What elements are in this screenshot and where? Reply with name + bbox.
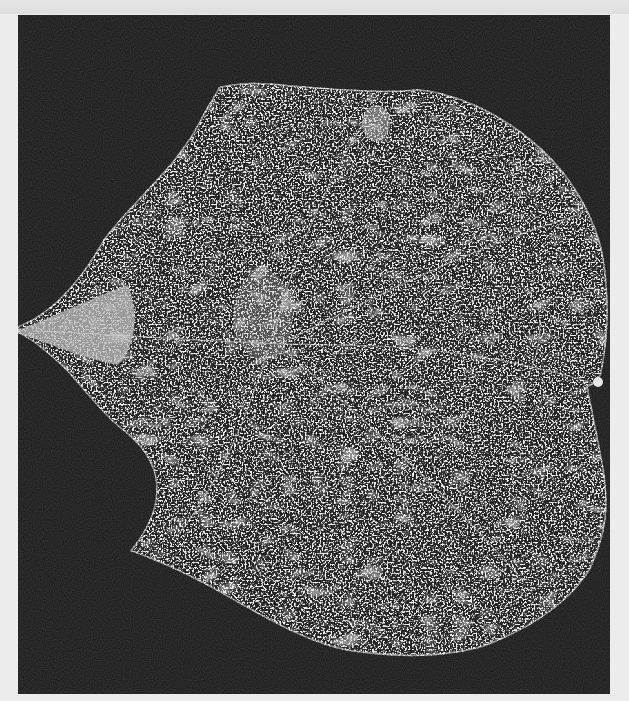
specimen-dot	[593, 377, 603, 387]
photo-frame	[18, 15, 610, 694]
leaf-photo	[18, 15, 610, 694]
leaf-center-patch	[233, 270, 293, 360]
page-margin-top	[0, 0, 629, 14]
